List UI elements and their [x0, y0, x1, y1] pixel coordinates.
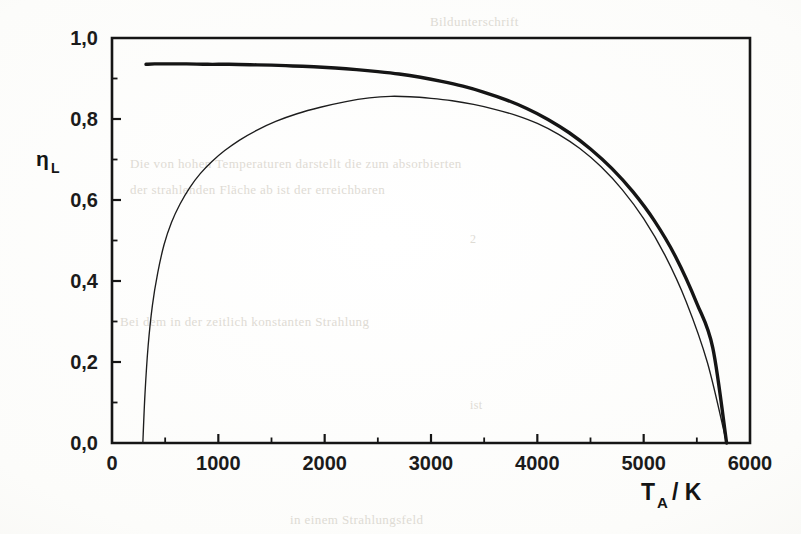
x-tick-label: 6000 — [728, 452, 773, 474]
x-axis-title-unit: / K — [672, 479, 702, 505]
x-axis-title: T A / K — [641, 479, 702, 511]
y-axis-tick-labels: 0,00,20,40,60,81,0 — [70, 27, 99, 454]
lower-thin-curve — [143, 96, 727, 443]
y-tick-label: 0,8 — [70, 108, 98, 130]
x-tick-label: 5000 — [621, 452, 666, 474]
y-axis-title: η L — [36, 147, 60, 176]
x-tick-label: 0 — [106, 452, 117, 474]
upper-thick-curve — [146, 64, 727, 443]
x-axis-tick-labels: 0100020003000400050006000 — [106, 452, 772, 474]
y-tick-label: 1,0 — [70, 27, 98, 49]
y-axis-title-subscript: L — [51, 160, 60, 176]
x-axis-title-symbol: T — [641, 479, 655, 505]
y-axis-ticks — [112, 79, 121, 403]
y-tick-label: 0,0 — [70, 432, 98, 454]
y-tick-label: 0,6 — [70, 189, 98, 211]
chart-canvas: 0100020003000400050006000 0,00,20,40,60,… — [0, 0, 801, 534]
x-tick-label: 3000 — [409, 452, 454, 474]
x-tick-label: 4000 — [515, 452, 560, 474]
data-series-group — [143, 64, 727, 443]
y-axis-title-symbol: η — [36, 147, 49, 170]
figure-page: BildunterschriftDie von hohen Temperatur… — [0, 0, 801, 534]
y-tick-label: 0,2 — [70, 351, 98, 373]
x-tick-label: 2000 — [302, 452, 347, 474]
x-axis-ticks — [165, 434, 697, 443]
x-axis-title-subscript: A — [657, 494, 668, 511]
x-tick-label: 1000 — [196, 452, 241, 474]
y-tick-label: 0,4 — [70, 270, 99, 292]
